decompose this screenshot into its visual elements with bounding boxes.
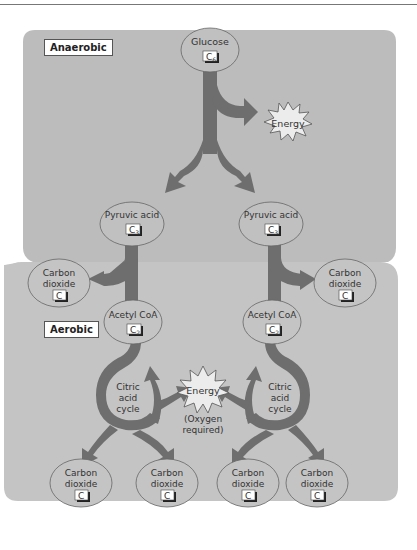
svg-text:Carbon: Carbon — [151, 468, 183, 478]
right-notch — [403, 258, 417, 266]
node-pyruvic-acid-right: Pyruvic acid C3 — [239, 202, 303, 246]
carbon-badge: C — [78, 491, 84, 501]
glucose-metabolism-diagram: Energy Energy (Oxygen required) Citric a… — [0, 0, 417, 550]
carbon-badge: C — [164, 491, 170, 501]
node-carbon-dioxide-bottom-2: Carbon dioxide C — [136, 459, 198, 507]
svg-text:Glucose: Glucose — [191, 36, 229, 47]
node-carbon-dioxide-right: Carbon dioxide C — [314, 259, 376, 307]
carbon-badge: C — [342, 291, 348, 301]
svg-text:acid: acid — [271, 393, 290, 403]
svg-text:dioxide: dioxide — [65, 479, 98, 489]
svg-text:cycle: cycle — [116, 404, 140, 414]
carbon-badge: C — [314, 491, 320, 501]
svg-text:Pyruvic acid: Pyruvic acid — [105, 210, 159, 220]
svg-text:Carbon: Carbon — [301, 468, 333, 478]
oxygen-note-line2: required) — [182, 425, 223, 435]
node-carbon-dioxide-left: Carbon dioxide C — [28, 259, 90, 307]
energy-label-anaerobic: Energy — [271, 118, 305, 129]
node-carbon-dioxide-bottom-4: Carbon dioxide C — [286, 459, 348, 507]
node-pyruvic-acid-left: Pyruvic acid C3 — [100, 202, 164, 246]
svg-text:cycle: cycle — [268, 404, 292, 414]
energy-label-aerobic: Energy — [186, 385, 220, 396]
section-label-aerobic: Aerobic — [44, 321, 99, 338]
citric-cycle-right: Citric acid cycle — [268, 382, 292, 414]
svg-text:Carbon: Carbon — [43, 268, 75, 278]
carbon-badge: C — [245, 491, 251, 501]
svg-text:Acetyl CoA: Acetyl CoA — [248, 310, 297, 320]
svg-text:Citric: Citric — [116, 382, 140, 392]
svg-text:Carbon: Carbon — [65, 468, 97, 478]
svg-text:dioxide: dioxide — [151, 479, 184, 489]
svg-text:Acetyl CoA: Acetyl CoA — [109, 310, 158, 320]
svg-text:dioxide: dioxide — [301, 479, 334, 489]
svg-text:Pyruvic acid: Pyruvic acid — [244, 210, 298, 220]
svg-text:acid: acid — [119, 393, 138, 403]
node-glucose: Glucose C6 — [181, 28, 239, 72]
svg-text:dioxide: dioxide — [329, 279, 362, 289]
node-acetyl-coa-left: Acetyl CoA C2 — [104, 300, 162, 344]
node-carbon-dioxide-bottom-3: Carbon dioxide C — [217, 459, 279, 507]
citric-cycle-left: Citric acid cycle — [116, 382, 140, 414]
node-acetyl-coa-right: Acetyl CoA C2 — [243, 300, 301, 344]
svg-text:Citric: Citric — [268, 382, 292, 392]
svg-text:dioxide: dioxide — [232, 479, 265, 489]
svg-text:dioxide: dioxide — [43, 279, 76, 289]
carbon-badge: C — [56, 291, 62, 301]
oxygen-note-line1: (Oxygen — [184, 414, 222, 424]
svg-text:Carbon: Carbon — [329, 268, 361, 278]
section-label-anaerobic: Anaerobic — [44, 39, 113, 56]
svg-text:Carbon: Carbon — [232, 468, 264, 478]
node-carbon-dioxide-bottom-1: Carbon dioxide C — [50, 459, 112, 507]
